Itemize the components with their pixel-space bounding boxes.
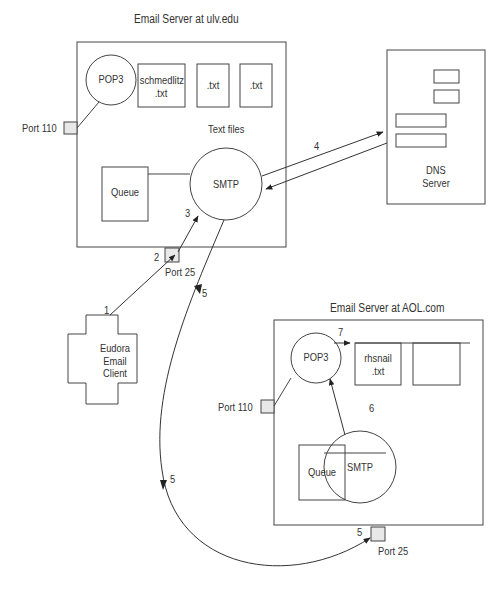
- ulv-pop3-label: POP3: [90, 73, 133, 86]
- aol-queue-label: Queue: [301, 466, 344, 479]
- client-line-1: Eudora: [97, 342, 133, 355]
- step-7-label: 7: [338, 326, 343, 339]
- ulv-port110-label: Port 110: [22, 122, 57, 135]
- file-name: rhsnail: [357, 352, 400, 365]
- ulv-port110: [64, 122, 77, 134]
- step-5b-label: 5: [170, 473, 175, 486]
- aol-port25-label: Port 25: [378, 545, 408, 558]
- aol-port25: [371, 527, 385, 541]
- file-name: schmedlitz: [140, 74, 183, 87]
- file-ext: .txt: [357, 365, 400, 378]
- step-3-label: 3: [185, 207, 190, 220]
- client-line-2: Email: [97, 355, 133, 368]
- aol-pop3-label: POP3: [295, 351, 338, 364]
- aol-smtp-label: SMTP: [338, 461, 382, 474]
- ulv-server-title: Email Server at ulv.edu: [134, 13, 239, 27]
- step-5c-label: 5: [357, 526, 362, 539]
- ulv-smtp-label: SMTP: [204, 178, 248, 191]
- ulv-queue-label: Queue: [104, 186, 147, 199]
- ulv-file-2-label: .txt: [199, 79, 226, 92]
- step-2-label: 2: [154, 251, 159, 264]
- ulv-port25-label: Port 25: [165, 266, 195, 279]
- dns-label: DNS Server: [414, 164, 458, 189]
- ulv-text-files-label: Text files: [208, 123, 244, 136]
- client-label: Eudora Email Client: [97, 342, 133, 380]
- step-5a-label: 5: [202, 287, 207, 300]
- dns-line-2: Server: [414, 177, 458, 190]
- aol-port110-label: Port 110: [218, 401, 253, 414]
- step-4-label: 4: [314, 140, 319, 153]
- file-ext: .txt: [140, 87, 183, 100]
- step-1-label: 1: [104, 304, 109, 317]
- dns-line-1: DNS: [414, 164, 458, 177]
- client-line-3: Client: [97, 367, 133, 380]
- ulv-file-3-label: .txt: [242, 79, 269, 92]
- ulv-port25: [165, 248, 179, 262]
- aol-server-title: Email Server at AOL.com: [330, 302, 445, 316]
- ulv-file-1-label: schmedlitz .txt: [140, 74, 183, 99]
- arrow-step-1-2: [110, 255, 175, 315]
- step-6-label: 6: [369, 402, 374, 415]
- aol-file-1-label: rhsnail .txt: [357, 352, 400, 377]
- aol-port110: [261, 400, 274, 413]
